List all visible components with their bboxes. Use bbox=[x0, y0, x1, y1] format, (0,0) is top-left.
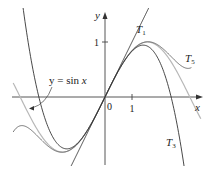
pointer-arrowhead-icon bbox=[29, 106, 34, 111]
y-tick-label-1: 1 bbox=[94, 37, 99, 48]
x-axis-arrow-icon bbox=[196, 95, 203, 100]
y-axis-arrow-icon bbox=[103, 12, 108, 19]
t3-label: T3 bbox=[166, 136, 176, 150]
x-axis-label: x bbox=[194, 101, 200, 113]
x-tick-label-1: 1 bbox=[130, 103, 135, 114]
origin-label: 0 bbox=[107, 101, 112, 112]
taylor-polynomial-plot: y x 0 1 1 y = sin x T1 T5 T3 bbox=[0, 0, 213, 171]
y-axis-label: y bbox=[94, 9, 100, 21]
sin-label: y = sin x bbox=[49, 74, 87, 86]
t5-label: T5 bbox=[185, 52, 195, 66]
sin-label-pointer bbox=[32, 87, 52, 108]
t1-label: T1 bbox=[136, 23, 146, 37]
